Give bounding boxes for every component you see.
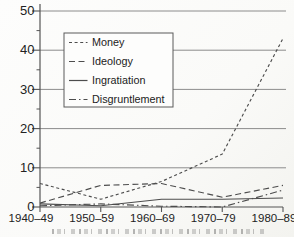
y-tick-label: 10 (20, 160, 34, 175)
y-tick-label: 20 (20, 121, 34, 136)
x-tick-label: 1980–89 (252, 212, 294, 224)
x-tick-label: 1940–49 (9, 212, 54, 224)
x-tick-label: 1950–59 (69, 212, 114, 224)
cut-off-caption-remnant (52, 229, 266, 234)
line-chart-figure: 010203040501940–491950–591960–691970–791… (0, 0, 294, 237)
legend-label-disgruntlement: Disgruntlement (92, 93, 165, 105)
y-tick-label: 50 (20, 3, 34, 18)
x-tick-label: 1960–69 (130, 212, 175, 224)
series-line-ingratiation (40, 198, 283, 206)
legend-label-ideology: Ideology (92, 55, 133, 67)
legend-label-ingratiation: Ingratiation (92, 74, 145, 86)
y-tick-label: 40 (20, 42, 34, 57)
chart-canvas: 010203040501940–491950–591960–691970–791… (0, 0, 294, 226)
legend-label-money: Money (92, 36, 125, 48)
x-tick-label: 1970–79 (191, 212, 236, 224)
y-tick-label: 30 (20, 82, 34, 97)
